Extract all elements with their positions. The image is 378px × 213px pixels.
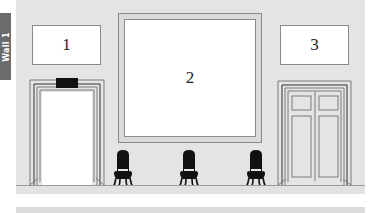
chair-1-icon[interactable] [111,149,135,189]
artwork-2-canvas: 2 [124,19,256,137]
open-doorway[interactable] [28,78,106,186]
artwork-3-frame[interactable]: 3 [280,25,349,65]
artwork-1-frame[interactable]: 1 [32,25,101,65]
floor-strip [16,186,365,194]
artwork-3-number: 3 [310,35,319,55]
artwork-1-number: 1 [62,35,71,55]
next-wall-strip [16,207,365,213]
artwork-2-frame[interactable]: 2 [118,13,262,143]
wall-label-tab: Wall 1 [0,13,11,80]
exit-sign-icon [56,78,78,88]
chair-3-icon[interactable] [244,149,268,189]
chair-2-icon[interactable] [177,149,201,189]
double-door[interactable] [277,80,353,186]
artwork-2-number: 2 [186,68,195,88]
wall-label: Wall 1 [1,32,10,62]
